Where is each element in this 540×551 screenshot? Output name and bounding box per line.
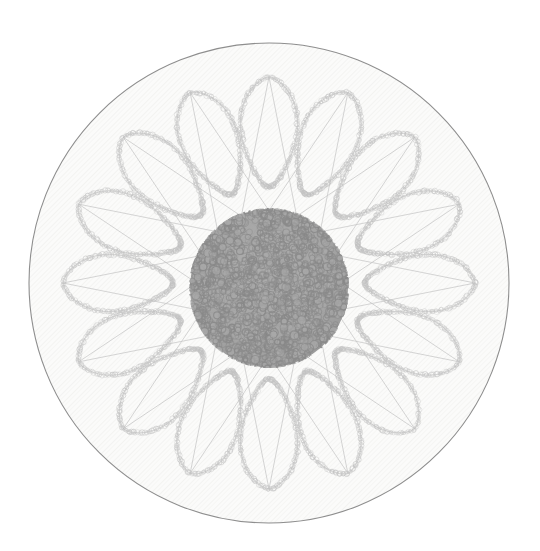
- core-scribble-dot: [269, 339, 274, 344]
- core-scribble-dot: [252, 217, 258, 223]
- core-scribble-dot: [281, 268, 290, 277]
- core-scribble-dot: [236, 214, 243, 221]
- core-scribble-dot: [234, 229, 241, 236]
- drawing-canvas: Spirograph Rosette Drawing A circular di…: [0, 0, 540, 551]
- core-scribble-dot: [255, 326, 260, 331]
- core-scribble-dot: [220, 258, 227, 265]
- core-scribble-dot: [192, 291, 200, 299]
- core-scribble-dot: [337, 309, 344, 316]
- core-scribble-dot: [293, 299, 300, 306]
- core-scribble-dot: [302, 327, 308, 333]
- core-scribble-dot: [293, 351, 297, 355]
- core-scribble-dot: [226, 237, 234, 245]
- core-scribble-dot: [199, 263, 207, 271]
- core-scribble-dot: [235, 327, 241, 333]
- core-scribble-dot: [332, 269, 337, 274]
- core-scribble-dot: [264, 313, 270, 319]
- core-scribble-dot: [249, 283, 256, 290]
- core-scribble-dot: [293, 263, 298, 268]
- core-scribble-dot: [212, 266, 221, 275]
- core-scribble-dot: [234, 267, 239, 272]
- core-scribble-dot: [301, 344, 308, 351]
- core-scribble-dot: [291, 321, 296, 326]
- core-scribble-dot: [280, 324, 288, 332]
- core-scribble-dot: [261, 296, 269, 304]
- core-scribble-dot: [337, 255, 343, 261]
- core-scribble-dot: [194, 311, 202, 319]
- core-scribble-dot: [309, 255, 314, 260]
- core-scribble-dot: [216, 297, 222, 303]
- core-scribble-dot: [227, 300, 232, 305]
- core-scribble-dot: [270, 331, 278, 339]
- core-scribble-dot: [253, 275, 258, 280]
- core-scribble-dot: [311, 238, 317, 244]
- core-scribble-dot: [193, 264, 199, 270]
- core-scribble-dot: [251, 356, 259, 364]
- core-scribble-dot: [245, 315, 250, 320]
- core-scribble-dot: [203, 298, 208, 303]
- core-scribble-dot: [223, 270, 230, 277]
- core-scribble-dot: [276, 349, 284, 357]
- core-scribble-dot: [291, 218, 299, 226]
- core-scribble-dot: [237, 248, 244, 255]
- core-scribble-dot: [309, 296, 314, 301]
- core-scribble-dot: [219, 243, 226, 250]
- core-scribble-dot: [221, 289, 226, 294]
- core-scribble-dot: [194, 274, 201, 281]
- core-scribble-dot: [288, 339, 293, 344]
- core-scribble-dot: [214, 312, 221, 319]
- spirograph-artwork: [0, 0, 540, 551]
- core-scribble-dot: [245, 321, 249, 325]
- core-scribble-dot: [322, 238, 331, 247]
- core-scribble-dot: [247, 301, 252, 306]
- core-scribble-dot: [302, 268, 309, 275]
- core-scribble-dot: [213, 338, 218, 343]
- core-scribble-dot: [283, 211, 288, 216]
- core-scribble-dot: [297, 316, 306, 325]
- core-scribble-dot: [335, 299, 343, 307]
- core-scribble-dot: [245, 234, 250, 239]
